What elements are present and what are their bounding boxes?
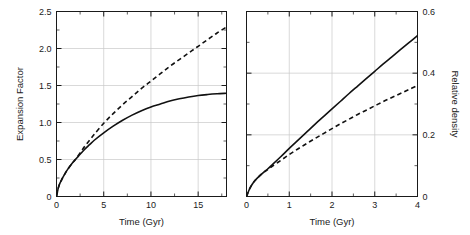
xtick-label: 1: [287, 200, 292, 210]
xtick-label: 3: [372, 200, 377, 210]
panel-right: 0123400.20.40.6Time (Gyr)Relative densit…: [244, 7, 461, 227]
panel-left: 05101500.51.01.52.02.5Time (Gyr)Expansio…: [14, 7, 227, 227]
xtick-label: 0: [244, 200, 249, 210]
xtick-label: 4: [415, 200, 420, 210]
ytick-label: 2.5: [39, 7, 52, 17]
series-solid-curve: [57, 93, 227, 196]
ytick-label: 1.5: [39, 81, 52, 91]
xtick-label: 10: [146, 200, 156, 210]
xtick-label: 2: [329, 200, 334, 210]
xtick-label: 15: [193, 200, 203, 210]
axis-ticks: 0123400.20.40.6: [244, 7, 435, 210]
xtick-label: 0: [54, 200, 59, 210]
figure-canvas: 05101500.51.01.52.02.5Time (Gyr)Expansio…: [0, 0, 470, 235]
ytick-label: 0: [46, 192, 51, 202]
two-panel-line-chart: 05101500.51.01.52.02.5Time (Gyr)Expansio…: [0, 0, 470, 235]
xtick-label: 5: [101, 200, 106, 210]
series-group: [57, 27, 227, 196]
yaxis-title: Expansion Factor: [14, 67, 25, 141]
xaxis-title: Time (Gyr): [119, 216, 164, 227]
ytick-label: 0.6: [423, 7, 436, 17]
ytick-label: 0: [423, 192, 428, 202]
ytick-label: 2.0: [39, 44, 52, 54]
gridlines: [57, 12, 227, 197]
ytick-label: 1.0: [39, 118, 52, 128]
xaxis-title: Time (Gyr): [309, 216, 354, 227]
ytick-label: 0.5: [39, 155, 52, 165]
ytick-label: 0.4: [423, 68, 436, 78]
ytick-label: 0.2: [423, 130, 436, 140]
series-dashed-curve: [57, 27, 227, 196]
plot-frame: [57, 12, 227, 197]
yaxis-title: Relative density: [450, 70, 461, 137]
gridlines: [247, 12, 418, 197]
